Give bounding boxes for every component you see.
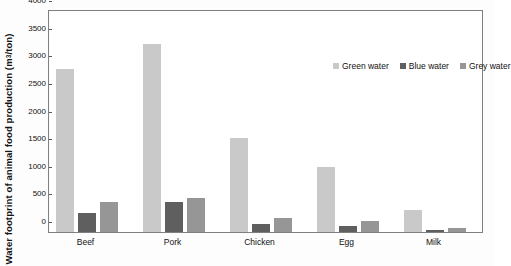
bar: [56, 69, 74, 232]
plot-area: 05001000150020002500300035004000 Green w…: [48, 10, 483, 233]
y-axis-title: Water footprint of animal food productio…: [0, 16, 16, 266]
y-axis-tick-label: 3500: [28, 24, 49, 34]
legend-label: Green water: [342, 61, 389, 71]
y-axis-tick-label: 1000: [28, 162, 49, 172]
y-axis-tick-label: 2500: [28, 79, 49, 89]
legend: Green waterBlue waterGrey water: [333, 61, 511, 71]
y-axis-title-exponent: 3: [5, 55, 12, 59]
bar: [100, 202, 118, 232]
bar: [230, 138, 248, 232]
legend-swatch: [460, 63, 466, 69]
y-axis-tick-label: 0: [42, 217, 49, 227]
bar-group: [404, 11, 466, 232]
legend-swatch: [400, 63, 406, 69]
x-axis-tick-label: Chicken: [244, 237, 275, 247]
bar-group: [56, 11, 118, 232]
y-axis-tick-label: 1500: [28, 134, 49, 144]
y-axis-tick: 2000: [28, 107, 49, 117]
x-axis-tick-label: Milk: [426, 237, 441, 247]
bar: [404, 210, 422, 232]
legend-item: Blue water: [400, 61, 449, 71]
x-axis-tick-label: Pork: [164, 237, 181, 247]
y-axis-tick-mark: [49, 1, 52, 2]
y-axis-tick: 3500: [28, 24, 49, 34]
bar: [252, 224, 270, 232]
y-axis-tick: 4000: [28, 0, 49, 6]
bar: [317, 167, 335, 232]
bar: [78, 213, 96, 232]
y-axis-tick-label: 4000: [28, 0, 49, 6]
legend-item: Grey water: [460, 61, 511, 71]
bar: [274, 218, 292, 232]
y-axis-tick-label: 3000: [28, 51, 49, 61]
bar-group: [143, 11, 205, 232]
bar: [339, 226, 357, 232]
y-axis-title-text: Water footprint of animal food productio…: [3, 58, 14, 264]
y-axis-tick-label: 500: [33, 189, 49, 199]
legend-label: Grey water: [469, 61, 511, 71]
legend-label: Blue water: [409, 61, 449, 71]
bar: [448, 228, 466, 232]
y-axis-tick: 3000: [28, 51, 49, 61]
bar: [187, 198, 205, 232]
y-axis-title-suffix: /ton): [3, 34, 14, 55]
bar: [165, 202, 183, 232]
x-axis-tick-label: Egg: [339, 237, 354, 247]
y-axis-tick: 2500: [28, 79, 49, 89]
y-axis-tick: 0: [42, 217, 49, 227]
bar-group: [230, 11, 292, 232]
legend-item: Green water: [333, 61, 389, 71]
x-axis-tick-label: Beef: [77, 237, 95, 247]
y-axis-tick: 1000: [28, 162, 49, 172]
bar: [361, 221, 379, 232]
y-axis-tick: 1500: [28, 134, 49, 144]
bar-group: [317, 11, 379, 232]
bar: [426, 230, 444, 232]
y-axis-tick: 500: [33, 189, 49, 199]
bars-layer: [49, 11, 482, 232]
y-axis-tick-label: 2000: [28, 107, 49, 117]
bar: [143, 44, 161, 232]
legend-swatch: [333, 63, 339, 69]
